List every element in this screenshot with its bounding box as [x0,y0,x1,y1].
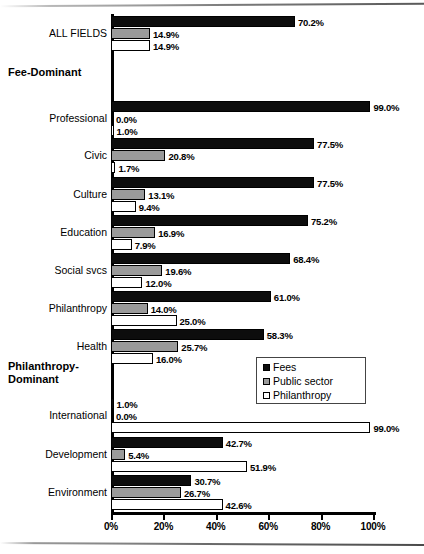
bar-value-label: 14.0% [151,304,177,315]
legend-item: Public sector [263,374,365,388]
x-axis-tick-label: 60% [258,521,277,532]
bar-international-phil [111,422,370,433]
bar-civic-phil [111,162,115,173]
legend-swatch-icon [263,378,270,385]
x-axis-tick [321,515,323,520]
bar-philanthropy-fees [111,291,271,302]
section-heading-fee-dominant: Fee-Dominant [8,66,81,79]
bar-environment-fees [111,475,191,486]
bar-value-label: 20.8% [168,151,194,162]
bar-health-fees [111,329,264,340]
bar-international-public [111,410,113,421]
bar-value-label: 9.4% [139,202,160,213]
legend-item: Fees [263,360,365,374]
x-axis-tick-label: 80% [311,521,330,532]
legend-swatch-icon [263,392,270,399]
bar-education-phil [111,239,132,250]
bar-value-label: 16.0% [156,354,182,365]
x-axis-tick-label: 100% [361,521,386,532]
section-heading-philanthropy-dominant: Philanthropy- Dominant [8,360,79,386]
x-axis-tick-label: 0% [104,521,118,532]
bar-value-label: 77.5% [317,178,343,189]
category-label-health: Health [1,340,107,352]
bar-value-label: 14.9% [153,41,179,52]
bar-professional-public [111,113,113,124]
section-heading-line2: Dominant [8,373,59,385]
category-label-column: Fee-Dominant Philanthropy- Dominant ALL … [0,0,107,554]
category-label-environment: Environment [1,486,107,498]
x-axis-tick [268,515,270,520]
bar-value-label: 1.0% [117,126,138,137]
bar-professional-phil [111,125,114,136]
category-label-social-svcs: Social svcs [1,264,107,276]
legend: FeesPublic sectorPhilanthropy [256,357,366,404]
category-label-development: Development [1,448,107,460]
bar-value-label: 25.7% [181,342,207,353]
x-axis-tick [373,515,375,520]
bar-chart: Fee-Dominant Philanthropy- Dominant ALL … [0,0,424,554]
bar-value-label: 75.2% [311,216,337,227]
legend-item: Philanthropy [263,388,365,402]
bar-value-label: 42.6% [226,500,252,511]
category-label-international: International [1,409,107,421]
bar-professional-fees [111,101,370,112]
bar-culture-phil [111,201,136,212]
bar-all-fields-public [111,28,150,39]
bar-environment-phil [111,499,223,510]
bar-value-label: 68.4% [293,254,319,265]
bar-all-fields-fees [111,16,295,27]
bar-value-label: 14.9% [153,29,179,40]
bar-value-label: 5.4% [128,450,149,461]
bar-social-svcs-fees [111,253,290,264]
bar-value-label: 26.7% [184,488,210,499]
section-heading-line1: Philanthropy- [8,360,79,372]
bar-value-label: 25.0% [180,316,206,327]
legend-label: Public sector [273,375,333,387]
legend-label: Philanthropy [273,389,331,401]
x-axis-tick [111,515,113,520]
legend-label: Fees [273,361,296,373]
bar-value-label: 99.0% [373,102,399,113]
bar-value-label: 13.1% [148,190,174,201]
bar-value-label: 19.6% [165,266,191,277]
bar-education-fees [111,215,308,226]
bar-development-fees [111,437,223,448]
bar-value-label: 0.0% [116,411,137,422]
bar-value-label: 16.9% [158,228,184,239]
category-label-culture: Culture [1,188,107,200]
bar-value-label: 58.3% [267,330,293,341]
category-label-civic: Civic [1,149,107,161]
bar-value-label: 61.0% [274,292,300,303]
bar-philanthropy-public [111,303,148,314]
bar-health-public [111,341,178,352]
bar-environment-public [111,487,181,498]
bar-all-fields-phil [111,40,150,51]
bar-value-label: 51.9% [250,462,276,473]
bar-culture-fees [111,177,314,188]
bar-value-label: 1.7% [118,163,139,174]
bar-development-phil [111,461,247,472]
bar-civic-public [111,150,165,161]
bar-value-label: 30.7% [194,476,220,487]
bar-value-label: 1.0% [117,399,138,410]
bar-philanthropy-phil [111,315,177,326]
bar-value-label: 77.5% [317,139,343,150]
bar-social-svcs-public [111,265,162,276]
bar-health-phil [111,353,153,364]
plot-area: 70.2%14.9%14.9%99.0%0.0%1.0%77.5%20.8%1.… [111,14,373,512]
bar-value-label: 42.7% [226,438,252,449]
x-axis-tick-label: 40% [206,521,225,532]
bar-social-svcs-phil [111,277,142,288]
bar-culture-public [111,189,145,200]
category-label-education: Education [1,226,107,238]
bar-civic-fees [111,138,314,149]
bar-value-label: 7.9% [135,240,156,251]
bar-value-label: 99.0% [373,423,399,434]
category-label-professional: Professional [1,112,107,124]
bar-value-label: 12.0% [145,278,171,289]
bar-value-label: 0.0% [116,114,137,125]
bar-value-label: 70.2% [298,17,324,28]
category-label-all-fields: ALL FIELDS [1,27,107,39]
bar-development-public [111,449,125,460]
x-axis-line [111,512,376,515]
